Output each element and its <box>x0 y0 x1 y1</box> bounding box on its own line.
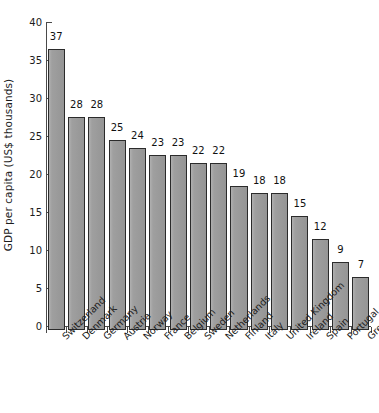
y-axis-title: GDP per capita (US$ thousands) <box>0 0 16 330</box>
x-label-united-kingdom: United Kingdom <box>284 334 292 342</box>
x-label-sweden: Sweden <box>202 334 210 342</box>
x-label-ireland: Ireland <box>304 334 312 342</box>
x-label-spain: Spain <box>324 334 332 342</box>
y-tick-label: 35 <box>2 55 42 66</box>
y-tick-label-wrap: 25 <box>0 136 42 137</box>
y-tick-label-wrap: 40 <box>0 22 42 23</box>
bar-finland[interactable] <box>230 186 247 330</box>
x-label-portugal: Portugal <box>345 334 353 342</box>
bar-value-label: 37 <box>44 31 69 42</box>
y-tick-label-wrap: 5 <box>0 288 42 289</box>
bar-value-label: 15 <box>287 198 312 209</box>
bar-belgium[interactable] <box>170 155 187 330</box>
bar-united-kingdom[interactable] <box>271 193 288 330</box>
y-tick-label-wrap: 15 <box>0 212 42 213</box>
bar-value-label: 28 <box>84 99 109 110</box>
x-label-italy: Italy <box>263 334 271 342</box>
x-label-france: France <box>162 334 170 342</box>
y-tick-label: 30 <box>2 93 42 104</box>
bar-chart: GDP per capita (US$ thousands) 051015202… <box>0 0 379 413</box>
bar-value-label: 22 <box>206 145 231 156</box>
x-label-norway: Norway <box>141 334 149 342</box>
bar-netherlands[interactable] <box>210 163 227 330</box>
y-tick-label: 10 <box>2 245 42 256</box>
bar-austria[interactable] <box>109 140 126 330</box>
y-tick-label: 15 <box>2 207 42 218</box>
x-label-switzerland: Switzerland <box>60 334 68 342</box>
bar-france[interactable] <box>149 155 166 330</box>
bar-denmark[interactable] <box>68 117 85 330</box>
bar-value-label: 12 <box>308 221 333 232</box>
y-tick-label: 25 <box>2 131 42 142</box>
x-label-denmark: Denmark <box>80 334 88 342</box>
y-tick-label-wrap: 35 <box>0 60 42 61</box>
x-label-belgium: Belgium <box>182 334 190 342</box>
y-tick-label-wrap: 10 <box>0 250 42 251</box>
x-label-finland: Finland <box>243 334 251 342</box>
bar-value-label: 18 <box>267 175 292 186</box>
x-label-austria: Austria <box>121 334 129 342</box>
bar-switzerland[interactable] <box>48 49 65 330</box>
y-tick-label: 0 <box>2 321 42 332</box>
bar-sweden[interactable] <box>190 163 207 330</box>
bar-value-label: 9 <box>328 244 353 255</box>
y-axis-title-text: GDP per capita (US$ thousands) <box>2 79 14 251</box>
y-tick-label-wrap: 0 <box>0 326 42 327</box>
bar-value-label: 7 <box>348 259 373 270</box>
y-tick-label: 20 <box>2 169 42 180</box>
y-tick-label-wrap: 20 <box>0 174 42 175</box>
x-label-germany: Germany <box>101 334 109 342</box>
y-tick-label: 5 <box>2 283 42 294</box>
x-label-netherlands: Netherlands <box>223 334 231 342</box>
y-tick-label-wrap: 30 <box>0 98 42 99</box>
x-label-greece: Greece <box>365 334 373 342</box>
plot-area <box>46 18 371 330</box>
y-tick-label: 40 <box>2 17 42 28</box>
